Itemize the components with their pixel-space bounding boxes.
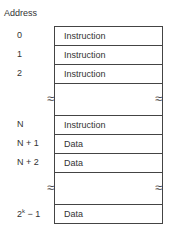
memory-cell: Instruction [54, 64, 163, 84]
memory-cell: Data [54, 204, 163, 224]
break-mark-icon: ≈ [155, 183, 162, 193]
break-mark-icon: ≈ [47, 183, 54, 193]
break-mark-icon: ≈ [155, 94, 162, 104]
break-mark-icon: ≈ [47, 94, 54, 104]
memory-gap [54, 172, 163, 205]
address-heading: Address [4, 8, 37, 18]
memory-cell: Data [54, 153, 163, 173]
memory-cell: Instruction [54, 45, 163, 65]
memory-gap [54, 83, 163, 116]
memory-cell: Instruction [54, 115, 163, 135]
memory-cell: Data [54, 134, 163, 154]
memory-cell: Instruction [54, 26, 163, 46]
